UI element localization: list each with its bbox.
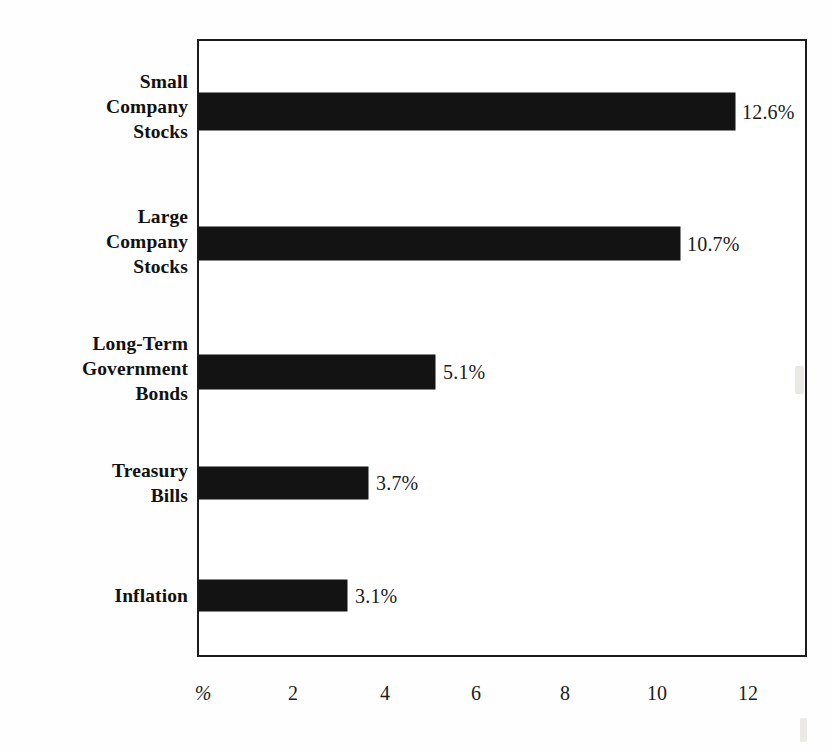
bar-small-company-stocks [199, 93, 735, 130]
value-label-treasury-bills: 3.7% [376, 473, 418, 493]
xtick-label-8: 8 [560, 683, 570, 703]
xtick-label-12: 12 [738, 683, 758, 703]
scan-artifact [800, 718, 807, 742]
xtick-label-2: 2 [288, 683, 298, 703]
value-label-small-company-stocks: 12.6% [742, 102, 795, 122]
scanned-page-background: Small Company Stocks Large Company Stock… [0, 0, 833, 753]
bar-inflation [199, 580, 347, 611]
plot-area-border [197, 39, 807, 657]
xtick-label-4: 4 [380, 683, 390, 703]
bar-chart: Small Company Stocks Large Company Stock… [0, 0, 833, 753]
category-label-inflation: Inflation [0, 583, 188, 608]
category-label-treasury-bills: Treasury Bills [0, 458, 188, 508]
bar-long-term-government-bonds [199, 355, 435, 389]
value-label-large-company-stocks: 10.7% [687, 234, 740, 254]
category-label-large-company-stocks: Large Company Stocks [0, 204, 188, 279]
scan-artifact [795, 366, 804, 394]
bar-large-company-stocks [199, 227, 680, 260]
xtick-label-10: 10 [647, 683, 667, 703]
bar-treasury-bills [199, 467, 368, 499]
category-label-long-term-government-bonds: Long-Term Government Bonds [0, 331, 188, 406]
xtick-label-percent: % [195, 683, 212, 703]
xtick-label-6: 6 [471, 683, 481, 703]
value-label-long-term-government-bonds: 5.1% [443, 362, 485, 382]
category-label-small-company-stocks: Small Company Stocks [0, 69, 188, 144]
value-label-inflation: 3.1% [355, 586, 397, 606]
